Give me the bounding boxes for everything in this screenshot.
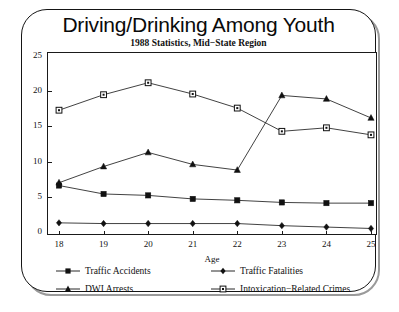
legend-label: Traffic Fatalities [240, 266, 303, 276]
x-tick-mark [59, 231, 60, 235]
y-tick-label: 25 [20, 50, 42, 60]
y-tick-mark [47, 197, 52, 198]
x-tick-label: 21 [178, 239, 208, 249]
x-tick-mark [104, 231, 105, 235]
x-tick-mark [193, 231, 194, 235]
y-tick-label: 5 [20, 191, 42, 201]
series-1 [56, 220, 373, 232]
filled-square-icon [55, 266, 81, 276]
legend-item: Traffic Fatalities [210, 266, 303, 276]
chart-subtitle: 1988 Statistics, Mid−State Region [21, 38, 376, 48]
chart-plot [47, 52, 377, 235]
x-tick-mark [371, 231, 372, 235]
chart-legend: Traffic AccidentsTraffic FatalitiesDWI A… [55, 266, 355, 302]
series-0 [56, 183, 373, 206]
series-2 [56, 92, 374, 185]
x-tick-mark [282, 231, 283, 235]
x-tick-label: 24 [311, 239, 341, 249]
y-tick-label: 15 [20, 120, 42, 130]
filled-diamond-icon [210, 266, 236, 276]
y-tick-mark [47, 126, 52, 127]
x-tick-label: 25 [356, 239, 386, 249]
legend-item: Traffic Accidents [55, 266, 151, 276]
y-tick-mark [47, 162, 52, 163]
legend-item: DWI Arrests [55, 284, 133, 294]
y-tick-label: 10 [20, 156, 42, 166]
open-square-icon [210, 284, 236, 294]
y-tick-label: 20 [20, 85, 42, 95]
legend-label: Intoxication−Related Crimes [240, 284, 350, 294]
x-tick-label: 18 [44, 239, 74, 249]
chart-title: Driving/Drinking Among Youth [21, 13, 376, 37]
series-3 [56, 80, 374, 138]
x-tick-mark [148, 231, 149, 235]
legend-label: DWI Arrests [85, 284, 133, 294]
legend-item: Intoxication−Related Crimes [210, 284, 350, 294]
y-tick-label: 0 [20, 226, 42, 236]
x-tick-label: 22 [222, 239, 252, 249]
legend-label: Traffic Accidents [85, 266, 151, 276]
x-tick-mark [237, 231, 238, 235]
x-tick-label: 23 [267, 239, 297, 249]
x-tick-label: 20 [133, 239, 163, 249]
x-axis-title: Age [47, 254, 377, 264]
chart-card-frame: Driving/Drinking Among Youth 1988 Statis… [0, 0, 399, 312]
x-tick-mark [326, 231, 327, 235]
x-tick-label: 19 [89, 239, 119, 249]
y-tick-mark [47, 91, 52, 92]
filled-triangle-icon [55, 284, 81, 294]
